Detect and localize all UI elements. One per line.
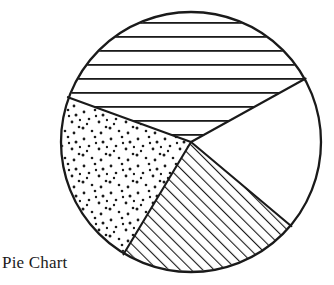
pie-chart-canvas bbox=[0, 0, 334, 285]
pie-chart-caption: Pie Chart bbox=[2, 253, 68, 273]
pie-chart-figure: Pie Chart bbox=[0, 0, 334, 285]
